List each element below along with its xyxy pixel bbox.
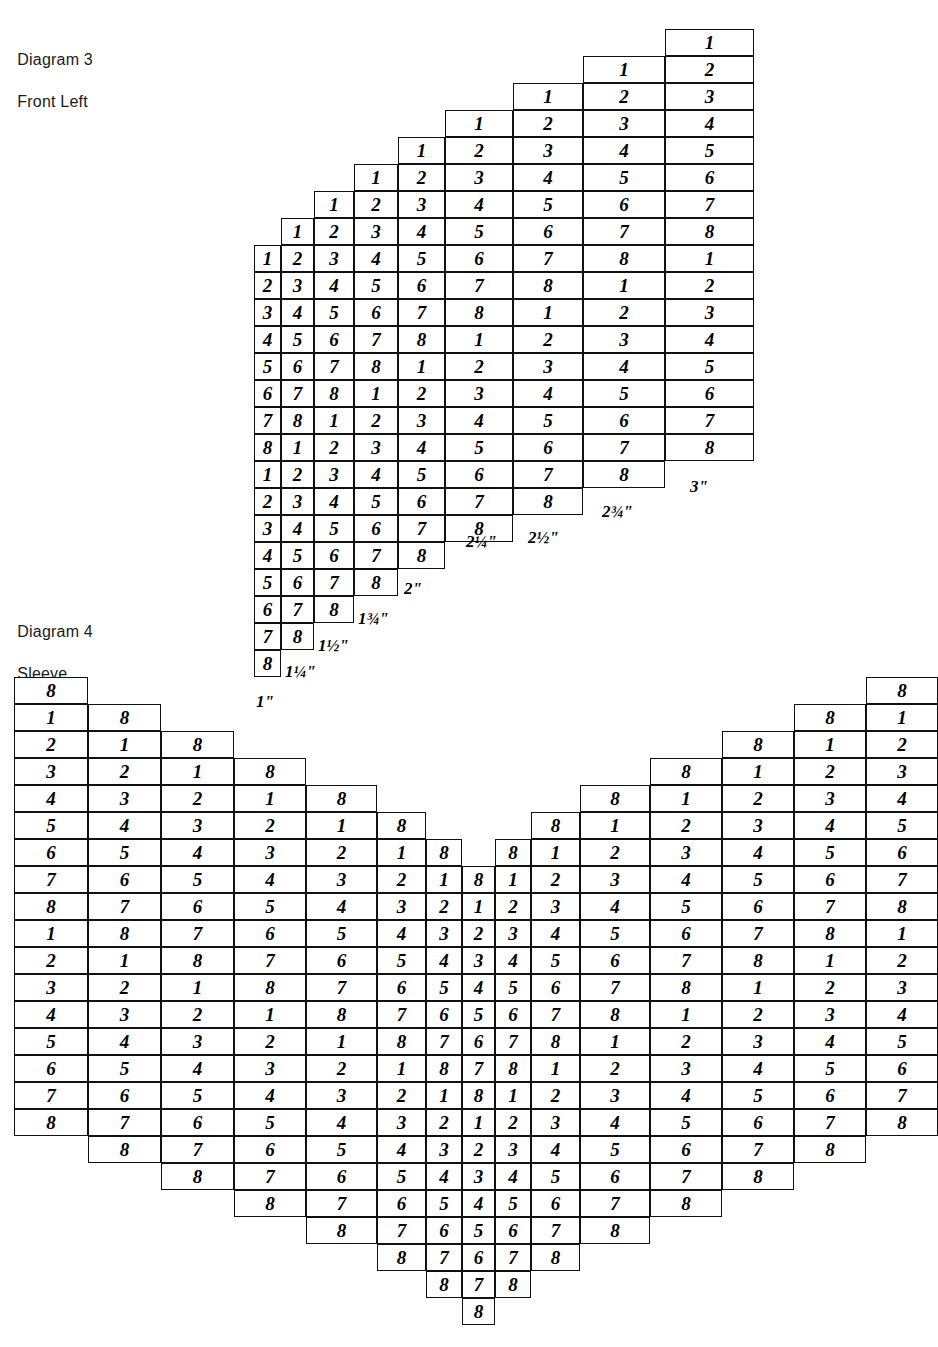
diagram4-cell: 2 bbox=[580, 1055, 650, 1082]
diagram4-cell: 6 bbox=[495, 1217, 531, 1244]
diagram3-cell: 6 bbox=[513, 218, 583, 245]
diagram3-caption-line2: Front Left bbox=[17, 93, 87, 110]
diagram4-cell: 1 bbox=[650, 1001, 722, 1028]
diagram4-cell: 2 bbox=[377, 1082, 426, 1109]
diagram4-cell: 5 bbox=[234, 1109, 306, 1136]
diagram3-cell: 5 bbox=[513, 191, 583, 218]
diagram3-cell: 4 bbox=[254, 326, 281, 353]
diagram4-cell: 7 bbox=[234, 1163, 306, 1190]
diagram4-cell: 6 bbox=[866, 1055, 938, 1082]
diagram4-cell: 6 bbox=[234, 1136, 306, 1163]
diagram4-cell: 6 bbox=[306, 1163, 377, 1190]
diagram4-cell: 2 bbox=[495, 1109, 531, 1136]
diagram3-cell: 3 bbox=[281, 272, 314, 299]
diagram4-cell: 7 bbox=[161, 920, 234, 947]
diagram4-cell: 4 bbox=[794, 1028, 866, 1055]
diagram4-cell: 8 bbox=[14, 677, 88, 704]
diagram4-cell: 7 bbox=[88, 893, 161, 920]
diagram4-cell: 6 bbox=[462, 1244, 495, 1271]
diagram3-cell: 5 bbox=[398, 461, 445, 488]
diagram4-cell: 2 bbox=[306, 1055, 377, 1082]
diagram3-cell: 2 bbox=[513, 110, 583, 137]
diagram4-cell: 1 bbox=[14, 920, 88, 947]
diagram4-cell: 7 bbox=[531, 1217, 580, 1244]
diagram4-cell: 5 bbox=[580, 1136, 650, 1163]
diagram4-cell: 6 bbox=[88, 1082, 161, 1109]
diagram3-caption: Diagram 3 Front Left bbox=[8, 28, 93, 112]
diagram3-cell: 5 bbox=[583, 380, 665, 407]
diagram4-cell: 8 bbox=[722, 947, 794, 974]
diagram4-cell: 7 bbox=[794, 1109, 866, 1136]
diagram4-cell: 3 bbox=[14, 758, 88, 785]
diagram4-cell: 8 bbox=[866, 1109, 938, 1136]
diagram4-cell: 8 bbox=[650, 1190, 722, 1217]
diagram4-cell: 5 bbox=[794, 1055, 866, 1082]
diagram3-cell: 7 bbox=[254, 407, 281, 434]
diagram4-cell: 6 bbox=[306, 947, 377, 974]
diagram4-cell: 1 bbox=[306, 812, 377, 839]
diagram3-cell: 5 bbox=[314, 515, 354, 542]
diagram3-cell: 3 bbox=[398, 407, 445, 434]
diagram3-cell: 4 bbox=[398, 218, 445, 245]
diagram4-cell: 8 bbox=[426, 839, 462, 866]
diagram4-cell: 2 bbox=[722, 1001, 794, 1028]
diagram3-cell: 3 bbox=[445, 164, 513, 191]
diagram3-cell: 1 bbox=[354, 380, 398, 407]
diagram4-cell: 8 bbox=[531, 1244, 580, 1271]
diagram3-cell: 6 bbox=[254, 596, 281, 623]
diagram4-cell: 8 bbox=[495, 839, 531, 866]
diagram3-cell: 3 bbox=[583, 110, 665, 137]
diagram4-cell: 1 bbox=[580, 812, 650, 839]
diagram4-cell: 1 bbox=[88, 947, 161, 974]
diagram4-cell: 6 bbox=[650, 1136, 722, 1163]
diagram4-cell: 6 bbox=[531, 1190, 580, 1217]
diagram4-cell: 2 bbox=[14, 731, 88, 758]
diagram4-cell: 3 bbox=[161, 812, 234, 839]
diagram3-cell: 2 bbox=[513, 326, 583, 353]
diagram4-cell: 2 bbox=[14, 947, 88, 974]
diagram4-cell: 7 bbox=[377, 1001, 426, 1028]
diagram3-cell: 1 bbox=[354, 164, 398, 191]
diagram3-cell: 7 bbox=[445, 488, 513, 515]
diagram4-cell: 5 bbox=[14, 812, 88, 839]
diagram3-cell: 4 bbox=[354, 461, 398, 488]
diagram4-cell: 6 bbox=[462, 1028, 495, 1055]
diagram3-measurement-label: 2¼" bbox=[466, 533, 497, 550]
diagram3-cell: 4 bbox=[314, 488, 354, 515]
diagram4-cell: 4 bbox=[866, 1001, 938, 1028]
diagram3-cell: 1 bbox=[445, 110, 513, 137]
diagram3-cell: 4 bbox=[281, 515, 314, 542]
diagram4-cell: 4 bbox=[722, 1055, 794, 1082]
diagram4-cell: 7 bbox=[426, 1244, 462, 1271]
diagram4-cell: 2 bbox=[462, 1136, 495, 1163]
diagram4-cell: 3 bbox=[866, 758, 938, 785]
diagram3-cell: 2 bbox=[398, 380, 445, 407]
diagram3-cell: 2 bbox=[665, 272, 754, 299]
diagram4-cell: 5 bbox=[88, 1055, 161, 1082]
diagram4-cell: 8 bbox=[580, 1217, 650, 1244]
diagram3-cell: 4 bbox=[583, 353, 665, 380]
diagram3-cell: 6 bbox=[354, 299, 398, 326]
diagram4-cell: 6 bbox=[580, 1163, 650, 1190]
diagram3-cell: 2 bbox=[354, 407, 398, 434]
diagram3-cell: 7 bbox=[281, 596, 314, 623]
diagram4-cell: 4 bbox=[495, 947, 531, 974]
diagram3-cell: 8 bbox=[513, 272, 583, 299]
diagram4-cell: 7 bbox=[580, 1190, 650, 1217]
diagram3-cell: 1 bbox=[513, 83, 583, 110]
diagram4-cell: 3 bbox=[306, 866, 377, 893]
diagram4-cell: 2 bbox=[650, 1028, 722, 1055]
diagram4-cell: 2 bbox=[426, 893, 462, 920]
diagram4-cell: 4 bbox=[462, 974, 495, 1001]
diagram3-measurement-label: 3" bbox=[690, 478, 708, 495]
diagram3-cell: 5 bbox=[254, 569, 281, 596]
diagram3-cell: 5 bbox=[583, 164, 665, 191]
diagram4-cell: 8 bbox=[426, 1055, 462, 1082]
diagram3-cell: 6 bbox=[314, 542, 354, 569]
diagram3-cell: 7 bbox=[281, 380, 314, 407]
diagram3-cell: 8 bbox=[314, 380, 354, 407]
diagram4-cell: 3 bbox=[426, 1136, 462, 1163]
diagram4-cell: 5 bbox=[14, 1028, 88, 1055]
diagram4-cell: 1 bbox=[88, 731, 161, 758]
diagram3-cell: 8 bbox=[281, 623, 314, 650]
